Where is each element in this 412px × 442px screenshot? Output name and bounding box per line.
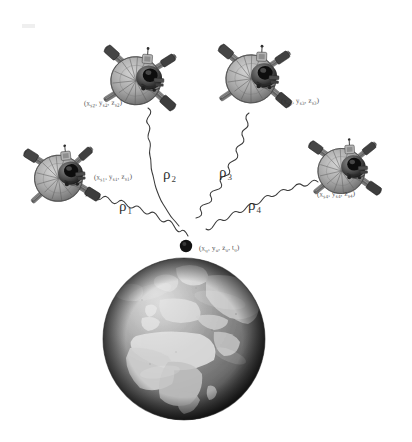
rho-subscript-4: 4 [257, 205, 262, 215]
rho-subscript-1: 1 [128, 206, 133, 216]
pseudorange-label-2: ρ2 [163, 166, 175, 183]
rho-subscript-2: 2 [172, 174, 177, 184]
satellite-1 [21, 141, 102, 210]
satellite-3-coordinate-label: (xs3, ys3, zs3) [281, 97, 319, 106]
gps-trilateration-figure: (xs1, ys1, zs1) (xs2, ys2, zs2) (xs3, ys… [0, 0, 412, 442]
satellite-4-coordinate-label: (xs4, ys4, zs4) [317, 190, 355, 199]
rho-subscript-3: 3 [228, 172, 233, 182]
satellite-1-coordinate-label: (xs1, ys1, zs1) [94, 173, 132, 182]
rho-symbol-1: ρ [119, 198, 127, 214]
gps-receiver-dot [180, 240, 192, 252]
pseudorange-path-4 [206, 180, 318, 230]
earth-globe [103, 258, 265, 420]
rho-symbol-4: ρ [248, 197, 256, 213]
diagram-canvas [0, 0, 412, 442]
pseudorange-label-4: ρ4 [248, 197, 260, 214]
pseudorange-label-3: ρ3 [219, 164, 231, 181]
satellite-2-coordinate-label: (xs2, ys2, zs2) [84, 99, 122, 108]
rho-symbol-2: ρ [163, 166, 171, 182]
receiver-state-label: (xu, yu, zu, tu) [199, 243, 240, 252]
pseudorange-path-1 [86, 194, 188, 236]
pseudorange-label-1: ρ1 [119, 198, 131, 215]
rho-symbol-3: ρ [219, 164, 227, 180]
